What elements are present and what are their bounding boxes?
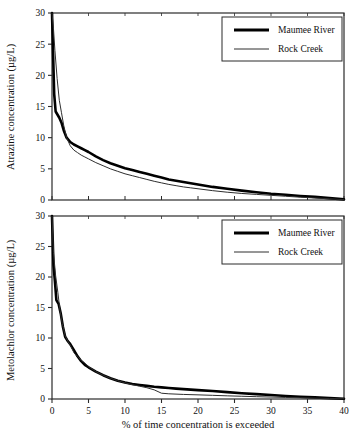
x-axis-tick-label: 35 bbox=[303, 406, 313, 416]
chart-panel-atrazine: Atrazine concentration (µg/L) 0510152025… bbox=[0, 0, 359, 214]
legend-entry-label: Rock Creek bbox=[278, 44, 323, 54]
x-axis-tick-label: 15 bbox=[157, 406, 167, 416]
y-axis-tick-label: 30 bbox=[36, 8, 46, 18]
x-axis-tick-label: 40 bbox=[339, 406, 349, 416]
y-axis-tick-label: 30 bbox=[36, 211, 46, 221]
x-axis-tick-label: 0 bbox=[50, 406, 55, 416]
x-axis-label: % of time concentration is exceeded bbox=[52, 419, 344, 430]
x-axis-tick-label: 25 bbox=[230, 406, 240, 416]
x-axis-tick-label: 5 bbox=[86, 406, 91, 416]
y-axis-tick-label: 5 bbox=[40, 164, 45, 174]
y-axis-tick-label: 15 bbox=[36, 102, 46, 112]
x-axis-tick-label: 10 bbox=[120, 406, 130, 416]
y-axis-tick-label: 0 bbox=[40, 394, 45, 404]
x-axis-tick-label: 20 bbox=[193, 406, 203, 416]
y-axis-tick-label: 25 bbox=[36, 242, 46, 252]
y-axis-tick-label: 10 bbox=[36, 333, 46, 343]
plot-area-metolachlor: 0510152025300510152025303540Maumee River… bbox=[0, 210, 359, 448]
y-axis-tick-label: 20 bbox=[36, 71, 46, 81]
legend-entry-label: Maumee River bbox=[278, 25, 336, 35]
plot-area-atrazine: 051015202530Maumee RiverRock Creek bbox=[0, 0, 359, 214]
y-axis-tick-label: 15 bbox=[36, 303, 46, 313]
legend-entry-label: Rock Creek bbox=[278, 247, 323, 257]
chart-panel-metolachlor: Metolachlor concentration (µg/L) 0510152… bbox=[0, 210, 359, 448]
y-axis-tick-label: 5 bbox=[40, 364, 45, 374]
y-axis-tick-label: 25 bbox=[36, 40, 46, 50]
y-axis-tick-label: 20 bbox=[36, 272, 46, 282]
figure-container: Atrazine concentration (µg/L) 0510152025… bbox=[0, 0, 359, 448]
y-axis-tick-label: 0 bbox=[40, 195, 45, 205]
y-axis-tick-label: 10 bbox=[36, 133, 46, 143]
legend-entry-label: Maumee River bbox=[278, 228, 336, 238]
x-axis-tick-label: 30 bbox=[266, 406, 276, 416]
